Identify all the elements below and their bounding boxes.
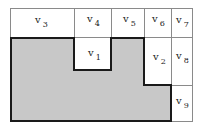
cell-label: v6 (152, 14, 165, 24)
outline-top-mid (110, 37, 145, 39)
outline-top-left (10, 37, 75, 39)
outline-bottom (10, 120, 172, 122)
outline-left (10, 37, 12, 122)
cell-v9: v9 (171, 85, 193, 122)
cell-label: v8 (176, 51, 189, 61)
cell-v6: v6 (144, 8, 172, 38)
cell-v3: v3 (10, 8, 75, 38)
cell-v1: v1 (74, 37, 112, 71)
cell-v7: v7 (171, 8, 193, 38)
outline-v1-right (110, 37, 112, 71)
cell-v5: v5 (111, 8, 145, 38)
cell-label: v1 (88, 48, 101, 58)
cell-label: v9 (176, 96, 189, 106)
cell-label: v3 (35, 15, 48, 25)
cell-label: v7 (176, 15, 189, 25)
outline-v1-bottom (73, 69, 112, 71)
outline-v2-left (143, 37, 145, 86)
cell-v4: v4 (74, 8, 112, 38)
outline-v1-left (73, 37, 75, 71)
cell-v8: v8 (171, 37, 193, 86)
cell-label: v2 (153, 52, 166, 62)
cell-label: v4 (87, 14, 100, 24)
outline-right (170, 84, 172, 122)
outline-v2-bottom (143, 84, 172, 86)
cell-v2: v2 (144, 37, 172, 86)
cell-label: v5 (123, 14, 136, 24)
